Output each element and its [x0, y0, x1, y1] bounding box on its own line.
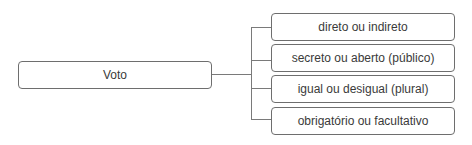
connector-branch-4 [251, 119, 271, 120]
root-node-label: Voto [103, 68, 127, 82]
child-node-igual: igual ou desigual (plural) [271, 75, 455, 103]
connector-root [212, 74, 252, 75]
connector-branch-2 [251, 60, 271, 61]
child-node-label: obrigatório ou facultativo [298, 114, 429, 128]
root-node-voto: Voto [18, 61, 212, 89]
child-node-obrigatorio: obrigatório ou facultativo [271, 107, 455, 135]
connector-branch-1 [251, 27, 271, 28]
child-node-secreto: secreto ou aberto (público) [271, 44, 455, 72]
child-node-label: secreto ou aberto (público) [292, 51, 435, 65]
connector-branch-3 [251, 88, 271, 89]
child-node-label: igual ou desigual (plural) [298, 82, 429, 96]
child-node-direto: direto ou indireto [271, 13, 455, 41]
connector-trunk [251, 27, 252, 120]
child-node-label: direto ou indireto [318, 20, 407, 34]
